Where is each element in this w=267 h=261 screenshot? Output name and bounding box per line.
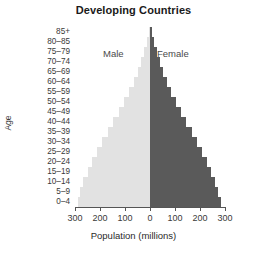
pyramid-row [75,177,225,187]
x-axis-tick [200,207,201,211]
pyramid-row [75,67,225,77]
pyramid-row [75,97,225,107]
age-tick-label: 60–64 [12,77,72,87]
bar-male [102,137,150,146]
bar-female [150,137,197,146]
pyramid-row [75,77,225,87]
age-tick-label: 35–39 [12,127,72,137]
bar-male [138,67,151,76]
pyramid-row [75,27,225,37]
pyramid-row [75,137,225,147]
bar-male [83,177,150,186]
pyramid-row [75,187,225,197]
pyramid-row [75,37,225,47]
pyramid-row [75,87,225,97]
age-tick-label: 0–4 [12,197,72,207]
bar-female [150,117,186,126]
bar-male [129,87,150,96]
plot-area [75,27,225,207]
age-tick-label: 25–29 [12,147,72,157]
x-axis-tick [125,207,126,211]
bar-female [150,167,211,176]
age-tick-label: 55–59 [12,87,72,97]
bar-female [150,157,207,166]
age-tick-label: 5–9 [12,187,72,197]
bar-female [150,47,157,56]
age-tick-label: 85+ [12,27,72,37]
bar-male [92,157,150,166]
bar-rows [75,27,225,207]
bar-female [150,107,181,116]
pyramid-row [75,147,225,157]
bar-female [150,187,218,196]
bar-female [150,97,176,106]
age-tick-label: 20–24 [12,157,72,167]
chart-title: Developing Countries [0,4,267,16]
population-pyramid-chart: Developing Countries Age 0–45–910–1415–1… [0,0,267,261]
pyramid-row [75,157,225,167]
x-axis-tick [225,207,226,211]
pyramid-row [75,57,225,67]
bar-female [150,197,221,206]
pyramid-row [75,107,225,117]
x-axis-tick [75,207,76,211]
legend-label-female: Female [157,48,189,59]
legend-label-male: Male [103,48,124,59]
bar-male [113,117,150,126]
bar-female [150,127,192,136]
pyramid-row [75,47,225,57]
bar-male [119,107,151,116]
bar-female [150,177,215,186]
bar-female [150,147,202,156]
bar-female [150,37,154,46]
age-tick-label: 30–34 [12,137,72,147]
age-tick-label: 80–85 [12,37,72,47]
age-tick-label: 50–54 [12,97,72,107]
bar-male [134,77,151,86]
bar-male [141,57,150,66]
bar-male [124,97,150,106]
pyramid-row [75,117,225,127]
age-tick-labels: 0–45–910–1415–1920–2425–2930–3435–3940–4… [12,27,72,207]
age-tick-label: 15–19 [12,167,72,177]
bar-male [80,187,150,196]
bar-female [150,77,167,86]
bar-female [150,67,163,76]
bar-female [150,87,171,96]
bar-male [97,147,150,156]
x-axis-tick-label: 300 [210,213,240,223]
age-tick-label: 75–79 [12,47,72,57]
x-axis-tick [100,207,101,211]
x-axis-tick [150,207,151,211]
age-tick-label: 45–49 [12,107,72,117]
bar-female [150,27,152,36]
pyramid-row [75,127,225,137]
bar-male [108,127,151,136]
pyramid-row [75,167,225,177]
x-axis-label: Population (millions) [0,230,267,241]
age-tick-label: 65–69 [12,67,72,77]
age-tick-label: 40–44 [12,117,72,127]
pyramid-row [75,197,225,207]
bar-male [78,197,151,206]
bar-male [88,167,151,176]
age-tick-label: 10–14 [12,177,72,187]
age-tick-label: 70–74 [12,57,72,67]
x-axis-tick [175,207,176,211]
